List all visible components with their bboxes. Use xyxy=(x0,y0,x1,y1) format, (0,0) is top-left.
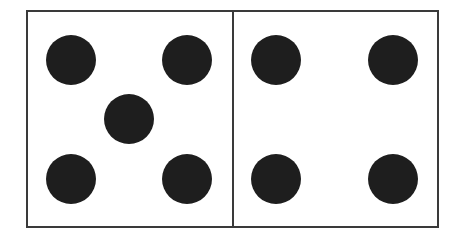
right-half-four-pips xyxy=(251,35,418,204)
pip-dot xyxy=(162,35,212,85)
pip-dot xyxy=(162,154,212,204)
pip-dot xyxy=(104,94,154,144)
pip-dot xyxy=(368,154,418,204)
domino-tile xyxy=(0,0,458,234)
pip-dot xyxy=(251,35,301,85)
pip-dot xyxy=(46,35,96,85)
left-half-five-pips xyxy=(46,35,212,204)
pip-dot xyxy=(251,154,301,204)
pip-dot xyxy=(368,35,418,85)
pip-dot xyxy=(46,154,96,204)
